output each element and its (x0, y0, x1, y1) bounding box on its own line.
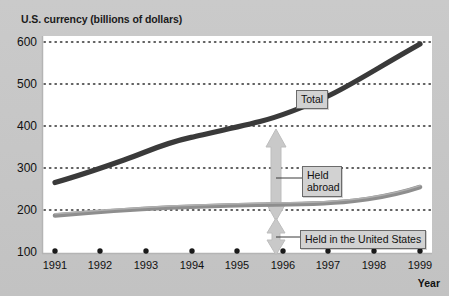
y-tick-500: 500 (5, 77, 37, 91)
y-tick-400: 400 (5, 119, 37, 133)
x-tick-1995: 1995 (214, 259, 260, 271)
x-tick-1997: 1997 (305, 259, 351, 271)
annotation-held-abroad-line2: abroad (307, 181, 337, 193)
chart-plot (0, 0, 449, 296)
chart-figure: U.S. currency (billions of dollars) (0, 0, 449, 296)
x-tick-1994: 1994 (169, 259, 215, 271)
x-tick-1991: 1991 (32, 259, 78, 271)
annotation-held-abroad: Held abroad (302, 166, 342, 197)
x-tick-1996: 1996 (260, 259, 306, 271)
y-tick-600: 600 (5, 35, 37, 49)
x-tick-1992: 1992 (77, 259, 123, 271)
annotation-held-abroad-line1: Held (307, 169, 337, 181)
annotation-held-in-us-label: Held in the United States (305, 233, 421, 245)
x-axis-label: Year (418, 277, 440, 289)
x-tick-1998: 1998 (351, 259, 397, 271)
y-tick-300: 300 (5, 161, 37, 175)
annotation-held-in-us: Held in the United States (300, 230, 426, 249)
y-tick-100: 100 (5, 245, 37, 259)
y-tick-200: 200 (5, 203, 37, 217)
annotation-total: Total (296, 90, 328, 109)
x-tick-1993: 1993 (123, 259, 169, 271)
annotation-total-label: Total (301, 93, 323, 105)
x-tick-1999: 1999 (397, 259, 443, 271)
